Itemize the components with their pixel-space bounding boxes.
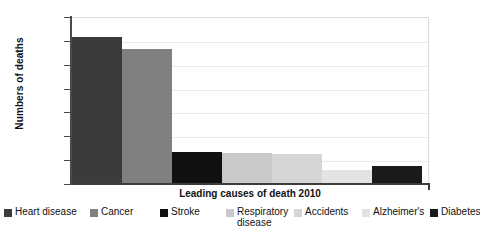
- y-axis-tick: [64, 41, 71, 42]
- bar-cancer: [122, 49, 172, 183]
- bar-alzheimer-s: [322, 170, 372, 183]
- legend-label: Respiratory disease: [237, 206, 295, 228]
- bar-heart-disease: [72, 37, 122, 183]
- y-axis-tick: [64, 160, 71, 161]
- legend-swatch-icon: [160, 209, 168, 217]
- legend-swatch-icon: [90, 209, 98, 217]
- legend-label: Heart disease: [15, 206, 77, 217]
- legend-item[interactable]: Alzheimer's: [362, 206, 424, 217]
- x-axis-line: [70, 183, 429, 185]
- legend-item[interactable]: Accidents: [294, 206, 348, 217]
- legend-swatch-icon: [226, 209, 234, 217]
- legend-swatch-icon: [362, 209, 370, 217]
- bars-group: [72, 17, 428, 183]
- y-axis-tick: [64, 112, 71, 113]
- legend-label: Cancer: [101, 206, 133, 217]
- y-axis-tick: [64, 89, 71, 90]
- legend-swatch-icon: [430, 209, 438, 217]
- legend-label: Stroke: [171, 206, 200, 217]
- chart-legend: Heart diseaseCancerStrokeRespiratory dis…: [4, 206, 468, 236]
- legend-item[interactable]: Heart disease: [4, 206, 77, 217]
- legend-label: Alzheimer's: [373, 206, 424, 217]
- legend-item[interactable]: Respiratory disease: [226, 206, 295, 228]
- legend-item[interactable]: Stroke: [160, 206, 200, 217]
- bar-accidents: [272, 154, 322, 183]
- legend-label: Accidents: [305, 206, 348, 217]
- bar-stroke: [172, 152, 222, 183]
- legend-item[interactable]: Diabetes: [430, 206, 480, 217]
- y-axis-tick: [64, 17, 71, 18]
- y-axis-title: Numbers of deaths: [14, 19, 25, 149]
- bar-respiratory-disease: [222, 153, 272, 183]
- legend-swatch-icon: [294, 209, 302, 217]
- legend-swatch-icon: [4, 209, 12, 217]
- y-axis-tick: [64, 65, 71, 66]
- y-axis-tick: [64, 136, 71, 137]
- legend-label: Diabetes: [441, 206, 480, 217]
- x-axis-title: Leading causes of death 2010: [71, 188, 429, 199]
- legend-item[interactable]: Cancer: [90, 206, 133, 217]
- bar-diabetes: [372, 166, 422, 183]
